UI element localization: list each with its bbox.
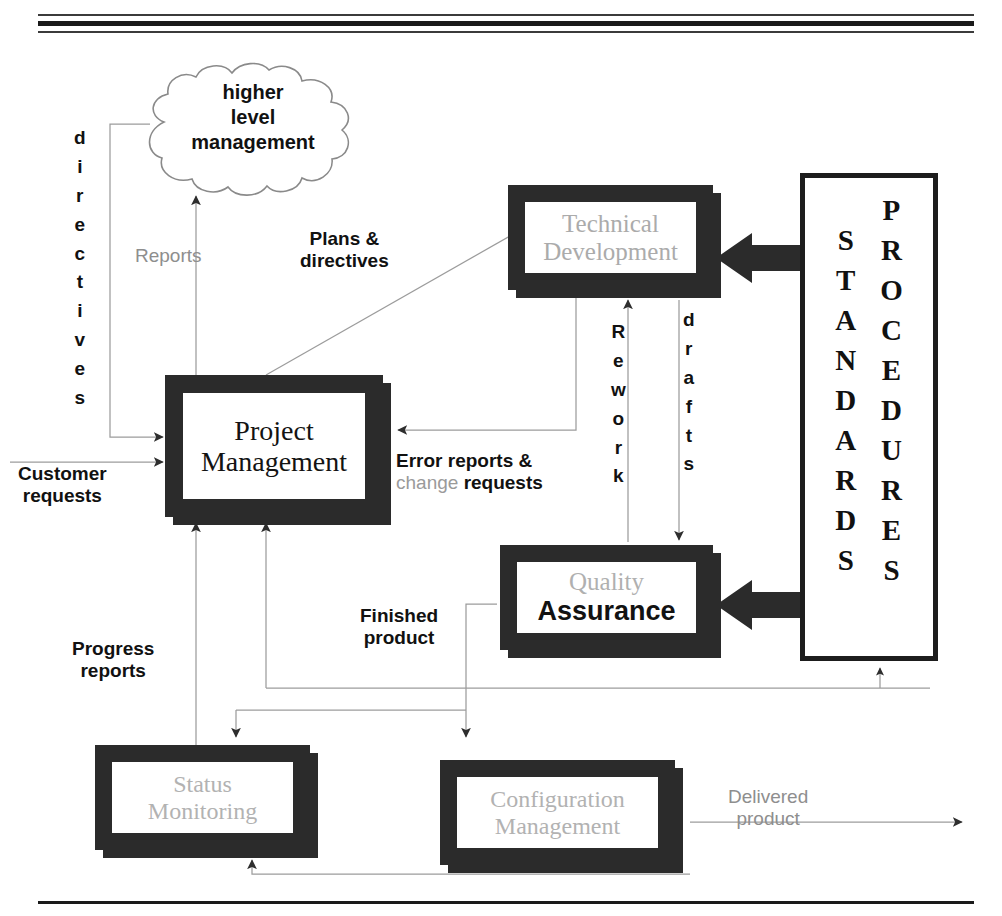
- directives-letter: s: [75, 384, 86, 413]
- box-label-line-2: Monitoring: [148, 798, 257, 825]
- directives-letter: e: [75, 211, 86, 240]
- standards-letter: D: [835, 500, 856, 540]
- label-line-2: product: [360, 627, 438, 649]
- label-line-1: Plans &: [300, 228, 389, 250]
- box-label-line-1: Configuration: [490, 786, 625, 813]
- standards-vertical-label: S T A N D A R D S: [835, 220, 856, 656]
- standards-letter: D: [835, 380, 856, 420]
- directives-letter: e: [75, 355, 86, 384]
- box-label-line-2: Development: [543, 238, 678, 266]
- box-inner-status-monitoring: Status Monitoring: [112, 762, 293, 833]
- drafts-letter: t: [686, 422, 692, 451]
- box-label-line-1: Status: [173, 771, 232, 798]
- cloud-label: higher level management: [138, 80, 368, 156]
- drafts-letter: a: [684, 364, 695, 393]
- box-technical-development[interactable]: Technical Development: [508, 185, 713, 290]
- procedures-letter: P: [883, 190, 901, 230]
- label-requests: requests: [464, 472, 543, 493]
- thick-arrow-group: [716, 233, 800, 630]
- label-line-2: requests: [18, 485, 107, 507]
- rework-letter: w: [611, 376, 626, 405]
- procedures-letter: S: [883, 550, 899, 590]
- label-progress-reports: Progress reports: [72, 638, 154, 682]
- box-label-line-2: Assurance: [537, 596, 675, 626]
- box-quality-assurance[interactable]: Quality Assurance: [500, 545, 713, 650]
- label-line-1: Delivered: [728, 786, 808, 808]
- procedures-letter: R: [881, 230, 902, 270]
- standards-letter: A: [835, 300, 856, 340]
- label-finished-product: Finished product: [360, 605, 438, 649]
- label-line-1: Error reports &: [396, 450, 543, 472]
- rework-letter: r: [615, 434, 622, 463]
- label-plans-and-directives: Plans & directives: [300, 228, 389, 272]
- rework-letter: k: [613, 462, 624, 491]
- label-delivered-product: Delivered product: [728, 786, 808, 830]
- diagram-canvas: higher level management Technical Develo…: [0, 0, 1002, 916]
- box-label-line-1: Quality: [569, 568, 644, 596]
- rework-letter: e: [613, 347, 624, 376]
- directives-letter: d: [74, 124, 86, 153]
- connector-error-reports: [398, 297, 576, 430]
- directives-letter: i: [77, 153, 82, 182]
- label-customer-requests: Customer requests: [18, 463, 107, 507]
- directives-letter: r: [76, 182, 83, 211]
- directives-letter: i: [77, 297, 82, 326]
- box-label-line-2: Management: [495, 813, 620, 840]
- procedures-vertical-label: P R O C E D U R E S: [880, 190, 903, 656]
- cloud-line-3: management: [138, 130, 368, 155]
- standards-letter: R: [835, 460, 856, 500]
- directives-letter: c: [75, 240, 86, 269]
- box-label-line-1: Technical: [562, 210, 659, 238]
- drafts-letter: d: [683, 306, 695, 335]
- label-drafts-vertical: d r a f t s: [683, 306, 695, 479]
- label-line-2: directives: [300, 250, 389, 272]
- box-status-monitoring[interactable]: Status Monitoring: [95, 745, 310, 850]
- standards-letter: S: [838, 540, 854, 580]
- box-inner-technical-development: Technical Development: [525, 202, 696, 273]
- box-label-line-1: Project: [234, 415, 313, 446]
- rework-letter: o: [613, 405, 625, 434]
- standards-letter: N: [835, 340, 856, 380]
- box-configuration-management[interactable]: Configuration Management: [440, 760, 675, 865]
- box-standards-procedures[interactable]: S T A N D A R D S P R O C E D U R E S: [800, 173, 938, 661]
- procedures-letter: E: [882, 510, 901, 550]
- procedures-letter: O: [880, 270, 903, 310]
- label-line-2: product: [728, 808, 808, 830]
- procedures-letter: D: [881, 390, 902, 430]
- box-inner-configuration-management: Configuration Management: [457, 777, 658, 848]
- cloud-line-1: higher: [138, 80, 368, 105]
- box-inner-project-management: Project Management: [183, 393, 365, 499]
- label-error-reports-change-requests: Error reports & change requests: [396, 450, 543, 494]
- label-line-1: Finished: [360, 605, 438, 627]
- cloud-line-2: level: [138, 105, 368, 130]
- drafts-letter: r: [685, 335, 692, 364]
- procedures-letter: C: [881, 310, 902, 350]
- label-line-1: Progress: [72, 638, 154, 660]
- label-line-1: Customer: [18, 463, 107, 485]
- directives-letter: v: [75, 326, 86, 355]
- drafts-letter: s: [684, 450, 695, 479]
- box-label-line-2: Management: [201, 446, 347, 477]
- standards-letter: S: [838, 220, 854, 260]
- thick-arrow-to-technical-development: [716, 233, 800, 283]
- drafts-letter: f: [686, 393, 692, 422]
- standards-letter: A: [835, 420, 856, 460]
- procedures-letter: U: [881, 430, 902, 470]
- label-rework-vertical: R e w o r k: [611, 318, 626, 491]
- standards-letter: T: [836, 260, 855, 300]
- procedures-letter: R: [881, 470, 902, 510]
- box-inner-quality-assurance: Quality Assurance: [517, 562, 696, 633]
- label-change: change: [396, 472, 458, 493]
- connector-finished-product: [466, 604, 497, 737]
- rework-letter: R: [612, 318, 626, 347]
- directives-letter: t: [77, 268, 83, 297]
- label-directives-vertical: d i r e c t i v e s: [74, 124, 86, 413]
- label-reports: Reports: [135, 245, 202, 267]
- procedures-letter: E: [882, 350, 901, 390]
- box-project-management[interactable]: Project Management: [165, 375, 383, 517]
- label-line-2: reports: [72, 660, 154, 682]
- label-line-2: change requests: [396, 472, 543, 494]
- thick-arrow-to-quality-assurance: [716, 580, 800, 630]
